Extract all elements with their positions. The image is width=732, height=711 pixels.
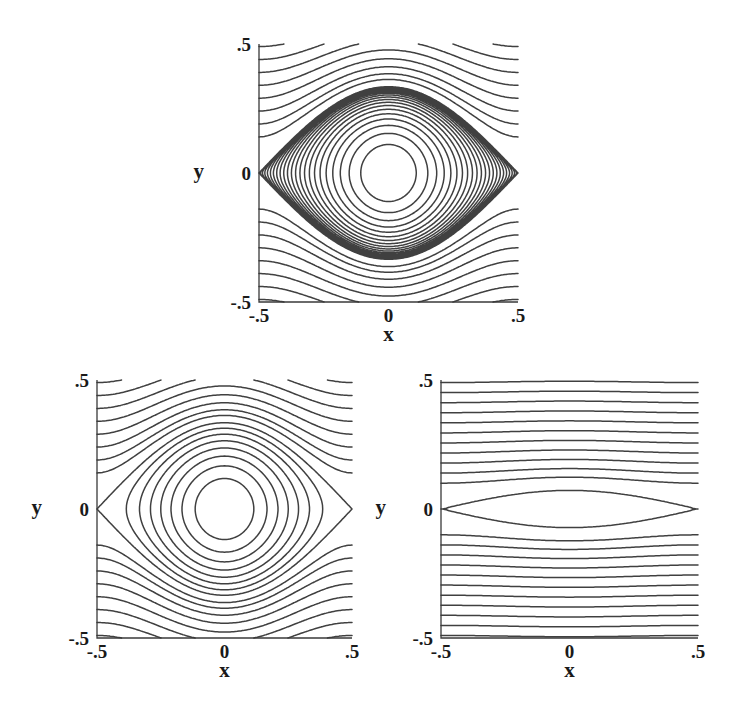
streamline-plot bbox=[441, 380, 698, 638]
plot-panel-top: .5 0 -.5 -.5 0 .5 x y bbox=[259, 44, 518, 302]
x-tick-right: .5 bbox=[691, 642, 705, 661]
y-tick-top: .5 bbox=[237, 35, 251, 54]
x-tick-left: -.5 bbox=[249, 306, 270, 325]
x-tick-left: -.5 bbox=[87, 642, 108, 661]
x-axis-label: x bbox=[564, 660, 575, 681]
y-axis-label: y bbox=[32, 497, 43, 518]
y-tick-top: .5 bbox=[75, 371, 89, 390]
y-tick-mid: 0 bbox=[242, 164, 252, 183]
x-tick-right: .5 bbox=[511, 306, 525, 325]
streamline-plot bbox=[97, 380, 352, 638]
y-tick-top: .5 bbox=[419, 371, 433, 390]
x-axis-label: x bbox=[219, 660, 230, 681]
streamlines bbox=[259, 44, 518, 302]
axis-lines bbox=[259, 44, 518, 302]
y-tick-mid: 0 bbox=[80, 500, 90, 519]
y-axis-label: y bbox=[194, 161, 205, 182]
plot-panel-bottom-left: .5 0 -.5 -.5 0 .5 x y bbox=[97, 380, 352, 638]
axis-lines bbox=[97, 380, 352, 638]
x-axis-label: x bbox=[383, 324, 394, 345]
plot-panel-bottom-right: .5 0 -.5 -.5 0 .5 x y bbox=[441, 380, 698, 638]
x-tick-left: -.5 bbox=[431, 642, 452, 661]
streamline-plot bbox=[259, 44, 518, 302]
y-axis-label: y bbox=[376, 497, 387, 518]
streamlines bbox=[441, 381, 698, 637]
axis-lines bbox=[441, 380, 698, 638]
x-tick-right: .5 bbox=[345, 642, 359, 661]
streamlines bbox=[97, 380, 352, 638]
y-tick-mid: 0 bbox=[424, 500, 434, 519]
